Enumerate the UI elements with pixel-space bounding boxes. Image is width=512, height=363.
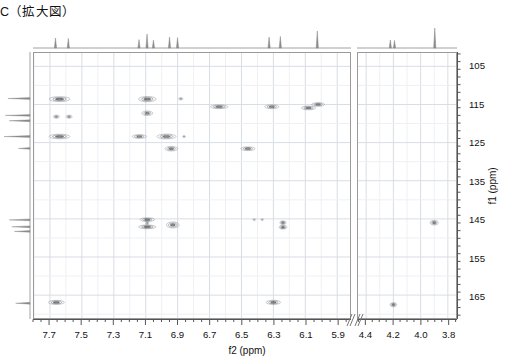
spectrum-panel-right[interactable]: [357, 52, 457, 319]
f1-tick-label: 145: [469, 214, 485, 225]
f2-tick-label: 5.9: [331, 329, 344, 340]
f2-tick-label: 4.0: [414, 329, 427, 340]
f2-tick-label: 7.5: [75, 329, 88, 340]
axis-break-icon-2: [353, 313, 365, 327]
f1-tick-label: 105: [469, 60, 485, 71]
f2-axis-left: 7.77.57.37.16.96.76.56.36.15.9: [33, 319, 351, 345]
f2-tick-label: 4.4: [359, 329, 372, 340]
f2-tick-label: 6.9: [171, 329, 184, 340]
f2-tick-label: 7.7: [42, 329, 55, 340]
f1-tick-label: 115: [469, 98, 484, 109]
f2-tick-label: 6.3: [267, 329, 280, 340]
f1-axis-title: f1 (ppm): [487, 167, 498, 204]
f1-tick-label: 155: [469, 252, 485, 263]
f2-tick-label: 6.1: [299, 329, 312, 340]
f2-projection-right: [357, 24, 457, 50]
f2-tick-label: 7.1: [139, 329, 152, 340]
f2-tick-label: 6.7: [203, 329, 216, 340]
f1-tick-label: 125: [469, 137, 485, 148]
f1-projection: [2, 52, 32, 319]
f1-axis: 105115125135145155165: [457, 52, 479, 319]
f2-projection-left: [33, 24, 351, 50]
spectrum-panel-left[interactable]: [33, 52, 351, 319]
f2-axis-right: 4.44.24.03.8: [357, 319, 457, 345]
f2-tick-label: 3.8: [442, 329, 455, 340]
f1-tick-label: 135: [469, 175, 485, 186]
f2-axis-title: f2 (ppm): [228, 345, 265, 356]
f1-tick-label: 165: [469, 290, 485, 301]
f2-tick-label: 4.2: [386, 329, 399, 340]
f2-tick-label: 6.5: [235, 329, 248, 340]
page-title: C（拡大図）: [0, 1, 75, 20]
f2-tick-label: 7.3: [107, 329, 120, 340]
